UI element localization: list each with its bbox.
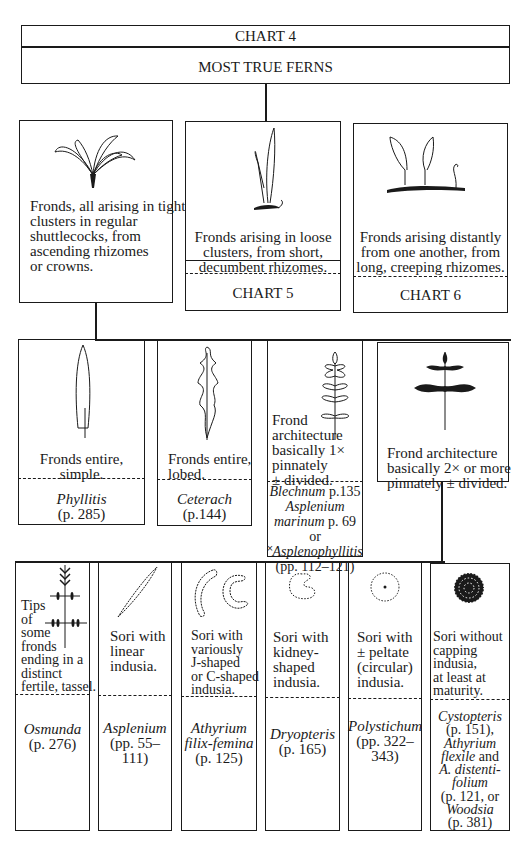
peltate-sorus-icon [368,570,402,604]
shuttlecock-fronds-icon [50,130,140,190]
linear-sorus-icon [115,565,160,620]
node-naked-sori-result[interactable]: Cystopteris (p. 151), Athyrium flexile a… [430,710,510,830]
node-naked-sori-description: Sori withoutcappingindusia,at least atma… [433,630,503,698]
node-creeping-rhizome-description: Fronds arising distantlyfrom one another… [353,230,508,275]
divider-dashed [181,696,257,697]
divider-dashed [98,695,172,696]
node-kidney-sori-description: Sori withkidney-shapedindusia. [273,630,328,690]
bipinnate-frond-icon [410,350,480,435]
node-j-c-shaped-sori-result[interactable]: Athyriumfilix-femina(p. 125) [181,721,257,766]
node-linear-sori-result[interactable]: Asplenium(pp. 55–111) [98,721,172,766]
node-linear-sori-description: Sori withlinearindusia. [110,629,165,674]
node-loose-cluster-frame [185,121,341,311]
connector-line [95,303,97,340]
divider-dashed [348,698,422,699]
divider-dashed [353,276,508,277]
lobed-frond-icon [192,345,222,440]
divider-dashed [18,478,145,479]
divider-dashed [265,697,340,698]
chart-label: CHART 4 [22,28,509,45]
node-pinnate-frond-description: Frondarchitecturebasically 1×pinnately± … [272,413,345,488]
node-fertile-tassel-description: Tipsofsomefrondsending in adistinctferti… [21,599,96,694]
j-c-shaped-sorus-icon [188,568,253,620]
node-shuttlecock-description: Fronds, all arising in tightclusters in … [30,199,185,274]
divider-dashed [15,694,90,695]
creeping-rhizome-fronds-icon [385,135,470,200]
connector-line [441,482,443,562]
node-lobed-frond-description: Fronds entire,lobed. [168,452,251,482]
divider-dashed [267,481,363,482]
chart-title: MOST TRUE FERNS [22,59,509,76]
simple-frond-icon [75,343,95,438]
node-simple-frond-result[interactable]: Phyllitis(p. 285) [18,492,145,522]
divider-dashed [430,699,510,700]
node-peltate-sori-description: Sori with± peltate(circular)indusia. [357,630,413,690]
chart-header: CHART 4 MOST TRUE FERNS [21,25,510,84]
node-j-c-shaped-sori-description: Sori withvariouslyJ-shapedor C-shapedind… [191,629,259,697]
node-fertile-tassel-result[interactable]: Osmunda(p. 276) [15,722,90,752]
node-creeping-rhizome-target[interactable]: CHART 6 [353,288,508,303]
naked-sorus-icon [451,570,487,606]
node-bipinnate-frond-description: Frond architecturebasically 2× or morepi… [387,446,511,491]
connector-line [265,83,267,121]
node-peltate-sori-result[interactable]: Polystichum(pp. 322–343) [348,719,422,764]
node-kidney-sori-result[interactable]: Dryopteris(p. 165) [265,727,340,757]
divider-dashed [157,479,252,480]
header-divider [22,46,509,48]
node-lobed-frond-result[interactable]: Ceterach(p.144) [157,492,252,522]
kidney-sorus-icon [286,570,318,602]
